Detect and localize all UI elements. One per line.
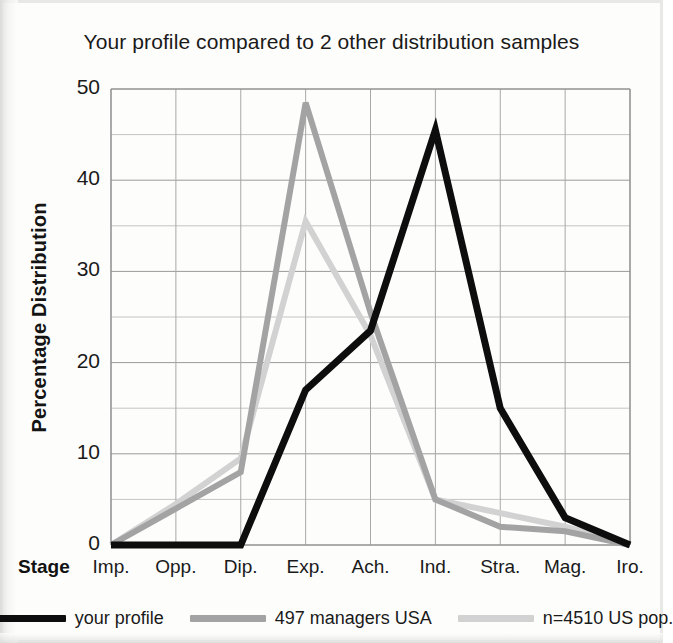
legend-item[interactable]: 497 managers USA [190, 608, 432, 629]
legend-item[interactable]: your profile [0, 608, 164, 629]
y-axis-tick-label: 50 [44, 75, 100, 99]
x-axis-tick-label: Ach. [351, 556, 389, 578]
x-axis-tick-label: Imp. [93, 556, 130, 578]
x-axis-title: Stage [18, 556, 70, 578]
legend-swatch-icon [190, 615, 266, 622]
chart-legend: your profile497 managers USAn=4510 US po… [0, 608, 663, 629]
x-axis-tick-label: Opp. [155, 556, 196, 578]
legend-label: 497 managers USA [275, 608, 432, 629]
legend-label: n=4510 US pop. [543, 608, 673, 629]
y-axis-tick-label: 20 [44, 349, 100, 373]
x-axis-tick-label: Dip. [224, 556, 258, 578]
x-axis-tick-label: Iro. [616, 556, 643, 578]
y-axis-tick-label: 30 [44, 257, 100, 281]
legend-label: your profile [75, 608, 164, 629]
x-axis-tick-label: Ind. [420, 556, 452, 578]
y-axis-tick-label: 0 [44, 531, 100, 555]
y-axis-tick-label: 40 [44, 166, 100, 190]
legend-swatch-icon [458, 615, 534, 622]
legend-swatch-icon [0, 615, 66, 622]
x-axis-tick-label: Exp. [287, 556, 325, 578]
x-axis-tick-label: Stra. [480, 556, 520, 578]
legend-item[interactable]: n=4510 US pop. [458, 608, 673, 629]
y-axis-tick-label: 10 [44, 440, 100, 464]
x-axis-tick-label: Mag. [544, 556, 586, 578]
